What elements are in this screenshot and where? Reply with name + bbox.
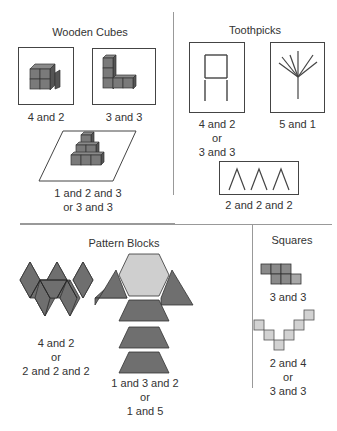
section-title: Squares: [262, 234, 322, 246]
cube-l-shape-icon: [92, 48, 156, 105]
toothpick-square-icon: [189, 42, 245, 113]
label-toothpicks-5-and-1: 5 and 1: [270, 117, 325, 131]
label-squares-3-and-3: 3 and 3: [258, 290, 318, 304]
label-line: 1 and 5: [100, 404, 190, 418]
label-line: or: [258, 370, 318, 384]
square-tiles-icon: [260, 263, 304, 285]
label-cubes-pyramid: 1 and 2 and 3 or 3 and 3: [38, 186, 138, 214]
label-line: 2 and 4: [258, 356, 318, 370]
label-cubes-4-and-2: 4 and 2: [18, 110, 74, 124]
divider-vertical-bottom: [252, 224, 253, 388]
label-line: 3 and 3: [189, 145, 245, 159]
label-line: or: [18, 350, 94, 364]
label-line: or: [100, 390, 190, 404]
label-line: or: [189, 131, 245, 145]
square-v-shape-icon: [253, 310, 319, 354]
label-toothpicks-square: 4 and 2 or 3 and 3: [189, 117, 245, 159]
toothpick-triangles-icon: [219, 161, 299, 195]
label-pattern-hexagon: 1 and 3 and 2 or 1 and 5: [100, 376, 190, 418]
hexagon-trapezoid-pattern-icon: [92, 252, 198, 358]
divider-horizontal: [20, 224, 332, 225]
section-title: Pattern Blocks: [74, 237, 174, 249]
label-cubes-3-and-3: 3 and 3: [92, 110, 156, 124]
label-line: 1 and 3 and 2: [100, 376, 190, 390]
divider-vertical-top: [173, 12, 174, 195]
rhombus-pattern-icon: [18, 262, 98, 330]
label-pattern-rhombus: 4 and 2 or 2 and 2 and 2: [18, 336, 94, 378]
label-line: or 3 and 3: [38, 200, 138, 214]
cube-pyramid-icon: [38, 128, 138, 183]
section-title: Toothpicks: [205, 24, 305, 36]
label-line: 2 and 2 and 2: [18, 364, 94, 378]
label-line: 1 and 2 and 3: [38, 186, 138, 200]
cube-block-2x2-icon: [18, 47, 74, 105]
label-toothpicks-2-2-2: 2 and 2 and 2: [219, 198, 299, 212]
label-line: 4 and 2: [18, 336, 94, 350]
section-title: Wooden Cubes: [40, 26, 140, 38]
toothpick-tree-icon: [270, 42, 325, 113]
label-line: 4 and 2: [189, 117, 245, 131]
label-line: 3 and 3: [258, 384, 318, 398]
label-squares-v: 2 and 4 or 3 and 3: [258, 356, 318, 398]
